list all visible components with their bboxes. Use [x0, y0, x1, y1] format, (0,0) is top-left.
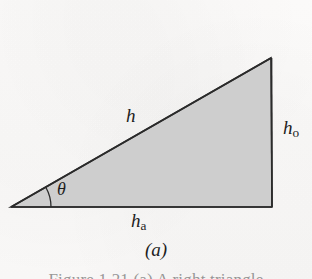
adjacent-side-label: ha: [131, 211, 146, 233]
opposite-side-label-subscript: o: [293, 125, 300, 140]
figure-part-label: (a): [0, 240, 312, 259]
opposite-side-line: [272, 58, 273, 207]
adjacent-side-label-symbol: h: [131, 210, 141, 231]
figure-page: h ho ha θ (a) Figure 1.21 (a) A right tr…: [0, 0, 312, 279]
adjacent-side-label-subscript: a: [141, 218, 147, 233]
angle-theta-label: θ: [57, 180, 66, 198]
right-triangle-diagram: [0, 0, 312, 279]
opposite-side-label: ho: [283, 118, 299, 140]
hypotenuse-label: h: [126, 106, 136, 125]
figure-caption-clipped: Figure 1.21 (a) A right triangle: [0, 270, 312, 279]
opposite-side-label-symbol: h: [283, 117, 293, 138]
